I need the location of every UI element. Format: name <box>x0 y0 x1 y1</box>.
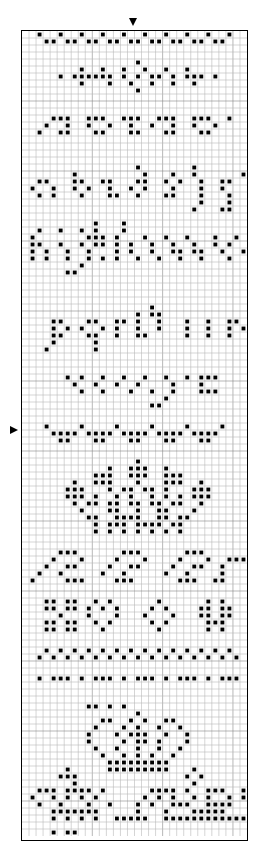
stitch-dot <box>136 747 140 751</box>
stitch-dot <box>228 649 232 653</box>
stitch-dot <box>185 376 189 380</box>
stitch-dot <box>94 523 98 527</box>
stitch-dot <box>136 656 140 660</box>
stitch-dot <box>94 229 98 233</box>
stitch-dot <box>206 796 210 800</box>
stitch-dot <box>59 439 63 443</box>
stitch-dot <box>178 516 182 520</box>
stitch-dot <box>143 761 147 765</box>
stitch-dot <box>136 40 140 44</box>
stitch-dot <box>185 677 189 681</box>
stitch-dot <box>150 530 154 534</box>
stitch-dot <box>143 180 147 184</box>
stitch-dot <box>94 726 98 730</box>
stitch-dot <box>66 551 70 555</box>
stitch-dot <box>52 677 56 681</box>
stitch-dot <box>171 439 175 443</box>
stitch-dot <box>164 131 168 135</box>
stitch-dot <box>157 117 161 121</box>
stitch-dot <box>178 817 182 821</box>
stitch-dot <box>101 243 105 247</box>
stitch-dot <box>59 551 63 555</box>
stitch-dot <box>178 474 182 478</box>
stitch-dot <box>80 810 84 814</box>
stitch-dot <box>122 117 126 121</box>
stitch-dot <box>150 502 154 506</box>
stitch-dot <box>52 600 56 604</box>
stitch-dot <box>206 131 210 135</box>
stitch-dot <box>213 789 217 793</box>
stitch-dot <box>136 502 140 506</box>
stitch-dot <box>66 565 70 569</box>
stitch-dot <box>108 705 112 709</box>
stitch-dot <box>59 614 63 618</box>
stitch-dot <box>52 656 56 660</box>
stitch-dot <box>136 768 140 772</box>
stitch-dot <box>136 313 140 317</box>
stitch-dot <box>66 796 70 800</box>
stitch-dot <box>192 495 196 499</box>
stitch-dot <box>228 194 232 198</box>
stitch-dot <box>59 131 63 135</box>
stitch-dot <box>108 803 112 807</box>
stitch-dot <box>129 82 133 86</box>
stitch-dot <box>115 495 119 499</box>
stitch-dot <box>143 187 147 191</box>
stitch-dot <box>115 558 119 562</box>
stitch-dot <box>80 796 84 800</box>
stitch-dot <box>192 817 196 821</box>
stitch-dot <box>66 831 70 835</box>
stitch-dot <box>185 733 189 737</box>
stitch-dot <box>94 481 98 485</box>
stitch-dot <box>228 33 232 37</box>
stitch-dot <box>87 789 91 793</box>
stitch-dot <box>73 775 77 779</box>
stitch-dot <box>122 761 126 765</box>
stitch-dot <box>192 677 196 681</box>
stitch-dot <box>94 600 98 604</box>
stitch-dot <box>185 236 189 240</box>
stitch-dot <box>171 250 175 254</box>
stitch-dot <box>59 229 63 233</box>
stitch-dot <box>228 208 232 212</box>
stitch-dot <box>66 600 70 604</box>
stitch-dot <box>59 810 63 814</box>
stitch-dot <box>206 432 210 436</box>
stitch-dot <box>129 502 133 506</box>
stitch-dot <box>150 124 154 128</box>
stitch-dot <box>80 656 84 660</box>
stitch-dot <box>101 607 105 611</box>
stitch-dot <box>143 817 147 821</box>
knitting-chart-grid <box>21 30 248 841</box>
stitch-dot <box>150 754 154 758</box>
stitch-dot <box>115 257 119 261</box>
stitch-dot <box>164 481 168 485</box>
stitch-dot <box>136 194 140 198</box>
stitch-dot <box>115 761 119 765</box>
stitch-dot <box>66 40 70 44</box>
stitch-dot <box>115 320 119 324</box>
stitch-dot <box>178 180 182 184</box>
stitch-dot <box>94 677 98 681</box>
stitch-dot <box>199 75 203 79</box>
stitch-dot <box>164 397 168 401</box>
stitch-dot <box>185 33 189 37</box>
stitch-dot <box>59 649 63 653</box>
stitch-dot <box>108 75 112 79</box>
stitch-dot <box>122 222 126 226</box>
stitch-dot <box>228 334 232 338</box>
stitch-dot <box>143 614 147 618</box>
stitch-dot <box>171 474 175 478</box>
stitch-dot <box>87 75 91 79</box>
stitch-dot <box>157 761 161 765</box>
stitch-dot <box>171 796 175 800</box>
stitch-dot <box>213 579 217 583</box>
stitch-dot <box>136 817 140 821</box>
stitch-dot <box>242 327 246 331</box>
stitch-dot <box>178 747 182 751</box>
stitch-dot <box>164 607 168 611</box>
stitch-dot <box>206 327 210 331</box>
stitch-dot <box>164 733 168 737</box>
stitch-dot <box>228 614 232 618</box>
stitch-dot <box>206 600 210 604</box>
